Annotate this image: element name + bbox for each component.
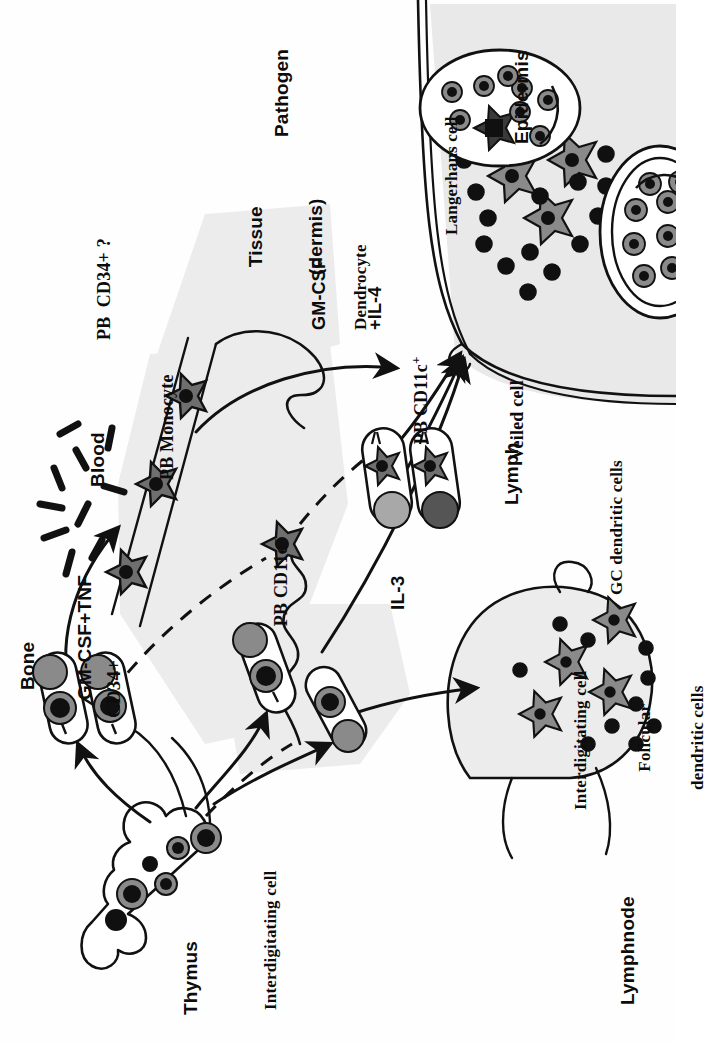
pb-cd11c-pos-superscript: + [408,356,423,364]
label-pb-monocyte: PB Monocyte [158,374,177,480]
label-il3: IL-3 [388,575,408,610]
label-pb-cd11c-negative: PB CD11c− [250,538,310,645]
pb-cd11c-pos-text: PB CD11c [411,364,431,444]
folicular-line-2: dendritic cells [689,685,707,790]
label-gc-dendritic-cells: GC dendritic cells [608,460,626,595]
label-folicular-dendritic-cells: Folicular dendritic cells [600,685,708,790]
label-gm-csf-il4: GM-CSF +IL-4 [272,258,423,330]
label-langerhans-cell: Langerhans cell [443,116,461,235]
label-dendrocyte: Dendrocyte [352,244,370,330]
label-thymus: Thymus [181,941,201,1015]
label-blood: Blood [88,432,108,487]
label-cd34: CD34+ [104,660,124,718]
label-lymphnode-interdigitating-cell: Interdigitating cell [572,670,590,810]
label-epidermis: Epidermis [512,50,532,144]
pb-cd11c-neg-superscript: − [268,538,283,546]
label-pathogen: Pathogen [272,49,292,137]
label-thymus-interdigitating-cell: Interdigitating cell [262,870,280,1010]
label-lymphnode: Lymphnode [618,896,638,1005]
label-pb-cd34: PB CD34+ ? [95,238,114,340]
folicular-line-1: Folicular [636,685,654,790]
label-lymph: Lymph [502,442,522,505]
label-gm-csf-tnf: GM-CSF+TNF [75,575,95,700]
label-bone: Bone [18,642,38,690]
pb-cd11c-neg-text: PB CD11c [271,546,291,626]
gm-csf-il4-line-1: GM-CSF [310,258,329,330]
pathogen-bacteria [40,424,124,574]
label-pb-cd11c-positive: PB CD11c+ [390,356,450,463]
tissue-dermis-line-1: Tissue [246,198,266,275]
